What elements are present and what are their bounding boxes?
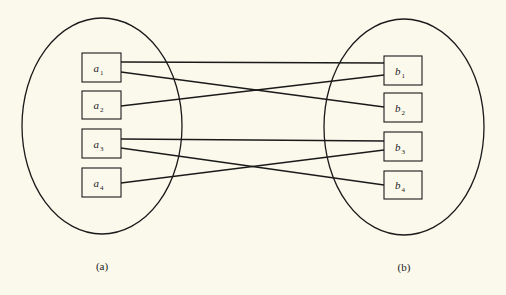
set-elements: a1a2a3a4b1b2b3b4 [82, 53, 422, 199]
element-b4: b4 [384, 171, 422, 199]
element-b3: b3 [384, 132, 422, 161]
element-b1: b1 [384, 56, 422, 85]
element-box [384, 171, 422, 199]
mapping-edges [121, 62, 384, 185]
element-box [82, 53, 121, 82]
edge-a1-b1 [121, 62, 384, 63]
element-a1: a1 [82, 53, 121, 82]
element-a2: a2 [82, 91, 121, 119]
element-box [82, 91, 121, 119]
set-a-ellipse [22, 18, 182, 234]
caption-b: (b) [398, 261, 411, 274]
element-b2: b2 [384, 93, 422, 122]
caption-a: (a) [96, 260, 109, 273]
element-box [384, 93, 422, 122]
set-ellipses [22, 18, 484, 235]
edge-a3-b3 [121, 139, 384, 141]
element-box [384, 132, 422, 161]
edge-a4-b3 [121, 150, 384, 183]
element-box [82, 129, 121, 158]
mapping-diagram: a1a2a3a4b1b2b3b4 (a) (b) [0, 0, 506, 295]
element-a4: a4 [82, 168, 121, 197]
element-box [384, 56, 422, 85]
set-b-ellipse [324, 19, 484, 235]
element-a3: a3 [82, 129, 121, 158]
element-box [82, 168, 121, 197]
